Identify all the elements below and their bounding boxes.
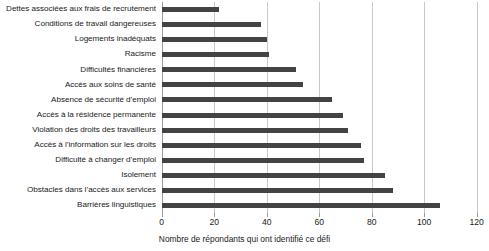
bar[interactable] bbox=[162, 173, 385, 178]
category-label: Violation des droits des travailleurs bbox=[0, 123, 156, 138]
bar-row[interactable] bbox=[162, 108, 477, 123]
category-label: Accès aux soins de santé bbox=[0, 77, 156, 92]
bar-row[interactable] bbox=[162, 62, 477, 77]
bar[interactable] bbox=[162, 37, 267, 42]
bar-row[interactable] bbox=[162, 92, 477, 107]
bar[interactable] bbox=[162, 82, 304, 87]
bar-row[interactable] bbox=[162, 168, 477, 183]
bar[interactable] bbox=[162, 22, 262, 27]
axis-tick-label: 20 bbox=[209, 217, 219, 227]
category-axis-labels: Dettes associées aux frais de recrutemen… bbox=[0, 2, 156, 213]
category-label: Barrières linguistiques bbox=[0, 198, 156, 213]
bar-row[interactable] bbox=[162, 77, 477, 92]
axis-tick-label: 80 bbox=[367, 217, 377, 227]
plot-area bbox=[162, 2, 477, 213]
x-axis-title: Nombre de répondants qui ont identifié c… bbox=[0, 234, 489, 244]
bar-row[interactable] bbox=[162, 123, 477, 138]
category-label: Dettes associées aux frais de recrutemen… bbox=[0, 2, 156, 17]
category-label: Accès à l’information sur les droits bbox=[0, 138, 156, 153]
axis-tick-label: 100 bbox=[417, 217, 431, 227]
category-label: Obstacles dans l’accès aux services bbox=[0, 183, 156, 198]
category-label: Logements inadéquats bbox=[0, 32, 156, 47]
bar-row[interactable] bbox=[162, 17, 477, 32]
bar[interactable] bbox=[162, 143, 362, 148]
bar-row[interactable] bbox=[162, 198, 477, 213]
category-label: Isolement bbox=[0, 168, 156, 183]
bar[interactable] bbox=[162, 158, 364, 163]
bar-row[interactable] bbox=[162, 138, 477, 153]
bar-row[interactable] bbox=[162, 2, 477, 17]
value-axis: 020406080100120 bbox=[162, 213, 477, 229]
category-label: Racisme bbox=[0, 47, 156, 62]
bar-row[interactable] bbox=[162, 47, 477, 62]
category-label: Difficulté à changer d’emploi bbox=[0, 153, 156, 168]
axis-tick-label: 120 bbox=[470, 217, 484, 227]
bar[interactable] bbox=[162, 67, 296, 72]
category-label: Difficultés financières bbox=[0, 62, 156, 77]
bar[interactable] bbox=[162, 188, 393, 193]
bar-chart: Dettes associées aux frais de recrutemen… bbox=[0, 0, 489, 251]
bar-row[interactable] bbox=[162, 32, 477, 47]
bar-row[interactable] bbox=[162, 183, 477, 198]
axis-tick-label: 60 bbox=[314, 217, 324, 227]
axis-tick-label: 0 bbox=[159, 217, 164, 227]
category-label: Accès à la résidence permanente bbox=[0, 108, 156, 123]
bar[interactable] bbox=[162, 52, 270, 57]
bar[interactable] bbox=[162, 203, 440, 208]
category-label: Absence de sécurité d’emploi bbox=[0, 92, 156, 107]
gridline bbox=[477, 2, 478, 213]
axis-tick-label: 40 bbox=[262, 217, 272, 227]
bar[interactable] bbox=[162, 7, 220, 12]
bar[interactable] bbox=[162, 97, 333, 102]
bar-row[interactable] bbox=[162, 153, 477, 168]
bar[interactable] bbox=[162, 113, 343, 118]
bar[interactable] bbox=[162, 128, 348, 133]
category-label: Conditions de travail dangereuses bbox=[0, 17, 156, 32]
